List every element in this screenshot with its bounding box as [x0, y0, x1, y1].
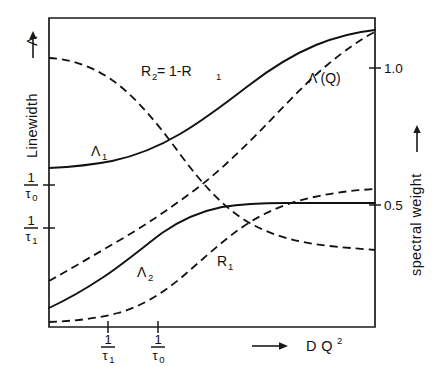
label-lambda-q: Λ (Q): [308, 70, 341, 86]
bottom-tick-label-tau1: 1 τ 1: [101, 332, 115, 365]
label-lambda2-main: Λ: [137, 264, 147, 280]
label-r2-equation: = 1-R: [157, 63, 192, 79]
label-lambda2: Λ 2: [137, 264, 153, 283]
left-tick-tau0-numerator: 1: [27, 170, 34, 185]
plot-canvas: Linewidth Λ 1 τ 0 1 τ 1 1.0 0.5 spectral…: [0, 0, 437, 369]
bottom-axis-arrow-icon: [252, 342, 288, 350]
left-tick-tau0-denominator: τ: [25, 186, 31, 201]
left-axis-title: Linewidth: [24, 93, 40, 158]
right-axis-title-group: spectral weight: [408, 125, 424, 276]
label-lambda1: Λ 1: [91, 143, 107, 162]
right-axis-title: spectral weight: [408, 173, 424, 276]
bottom-tick-tau1-denominator-sub: 1: [109, 354, 114, 365]
left-tick-tau1-denominator-sub: 1: [32, 235, 37, 246]
bottom-axis-title: D Q: [306, 338, 333, 354]
label-lambda1-main: Λ: [91, 143, 101, 159]
left-tick-label-tau0: 1 τ 0: [24, 170, 38, 203]
label-r1: R 1: [217, 253, 233, 272]
label-lambda1-sub: 1: [102, 151, 107, 162]
left-tick-tau1-numerator: 1: [27, 213, 34, 228]
right-tick-label-one: 1.0: [384, 61, 403, 76]
label-r2: R 2 = 1-R 1: [141, 63, 221, 82]
bottom-tick-tau0-numerator: 1: [154, 332, 161, 347]
right-tick-label-half: 0.5: [384, 198, 403, 213]
label-lambda2-sub: 2: [148, 272, 153, 283]
left-tick-tau1-denominator: τ: [25, 229, 31, 244]
bottom-tick-tau0-denominator-sub: 0: [159, 354, 164, 365]
left-tick-tau0-denominator-sub: 0: [32, 192, 37, 203]
left-axis-title-group: Linewidth Λ: [24, 31, 40, 158]
left-tick-label-tau1: 1 τ 1: [24, 213, 38, 246]
label-r2-equation-sub: 1: [216, 71, 221, 82]
label-r1-sub: 1: [228, 261, 233, 272]
bottom-tick-tau1-denominator: τ: [102, 348, 108, 363]
bottom-tick-tau1-numerator: 1: [104, 332, 111, 347]
label-r1-main: R: [217, 253, 227, 269]
bottom-axis-title-group: D Q 2: [252, 335, 342, 354]
right-axis-arrow-icon: [413, 125, 420, 152]
bottom-axis-title-exponent: 2: [337, 335, 342, 346]
bottom-tick-tau0-denominator: τ: [152, 348, 158, 363]
figure-root: Linewidth Λ 1 τ 0 1 τ 1 1.0 0.5 spectral…: [0, 0, 437, 369]
curve-lambda2: [49, 203, 375, 308]
label-r2-main: R: [141, 63, 151, 79]
bottom-tick-label-tau0: 1 τ 0: [151, 332, 165, 365]
